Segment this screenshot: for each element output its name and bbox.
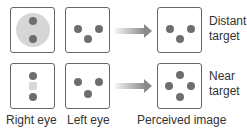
left-dot xyxy=(166,25,174,33)
bottom-dot xyxy=(84,35,92,43)
lower-dot xyxy=(29,93,37,101)
bottom-dot xyxy=(176,35,184,43)
left-eye-near-box xyxy=(65,63,110,109)
bottom-dot xyxy=(176,93,184,101)
left-dot xyxy=(165,82,173,90)
perceived-image-label: Perceived image xyxy=(137,113,226,127)
top-dot xyxy=(176,71,184,79)
upper-dot xyxy=(29,17,37,25)
right-dot xyxy=(95,78,103,86)
near-target-label-1: Near xyxy=(209,69,235,83)
bottom-dot xyxy=(84,90,92,98)
left-dot xyxy=(74,25,82,33)
distant-target-label-2: target xyxy=(209,29,240,43)
upper-dot xyxy=(29,72,37,80)
left-dot xyxy=(74,78,82,86)
arrow-distant xyxy=(115,28,145,34)
left-eye-distant-box xyxy=(65,7,110,53)
right-eye-label: Right eye xyxy=(6,113,57,127)
distant-target-label-1: Distant xyxy=(209,14,246,28)
right-dot xyxy=(187,25,195,33)
left-eye-label: Left eye xyxy=(67,113,110,127)
near-target-label-2: target xyxy=(209,84,240,98)
right-dot xyxy=(95,25,103,33)
right-dot xyxy=(187,82,195,90)
suppression-square xyxy=(29,82,37,90)
lower-dot xyxy=(29,35,37,43)
right-eye-distant-box xyxy=(10,7,55,53)
right-eye-near-box xyxy=(10,63,55,109)
perceived-distant-box xyxy=(157,7,202,53)
perceived-near-box xyxy=(157,63,202,109)
arrow-near xyxy=(115,83,145,89)
